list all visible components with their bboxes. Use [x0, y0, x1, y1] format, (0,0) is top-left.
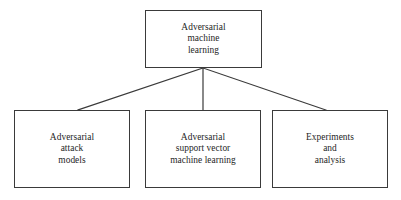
node-adversarial-support-vector-machine-learning: Adversarial support vector machine learn… [145, 110, 261, 188]
node-label: Experiments and analysis [303, 132, 357, 167]
node-label: Adversarial support vector machine learn… [167, 132, 239, 167]
node-label: Adversarial machine learning [178, 22, 228, 57]
connector-root-to-experiments [203, 68, 326, 110]
node-label: Adversarial attack models [47, 132, 97, 167]
node-experiments-and-analysis: Experiments and analysis [272, 110, 388, 188]
connector-root-to-attack-models [78, 68, 203, 110]
diagram-canvas: Adversarial machine learning Adversarial… [0, 0, 401, 200]
node-adversarial-machine-learning: Adversarial machine learning [145, 10, 262, 68]
node-adversarial-attack-models: Adversarial attack models [14, 110, 130, 188]
